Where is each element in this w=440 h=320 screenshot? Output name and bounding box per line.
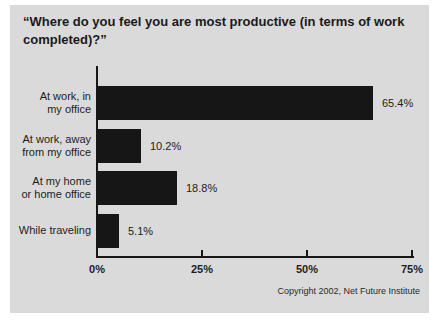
page-background: “Where do you feel you are most producti… [0,0,440,320]
category-label: At work, away from my office [10,129,91,163]
x-tick-label: 0% [77,263,117,275]
bar [98,86,373,120]
value-label: 18.8% [186,181,217,195]
value-label: 5.1% [128,224,153,238]
x-axis-line [96,256,414,258]
category-label: At my home or home office [10,171,91,205]
value-label: 65.4% [382,96,413,110]
category-label: While traveling [10,214,91,248]
bar [98,171,177,205]
bar [98,214,119,248]
bar [98,129,141,163]
x-tick-mark [411,250,413,256]
plot-area: At work, in my office65.4%At work, away … [10,5,429,313]
x-tick-label: 75% [392,263,432,275]
category-label: At work, in my office [10,86,91,120]
x-tick-mark [201,250,203,256]
value-label: 10.2% [150,139,181,153]
copyright-text: Copyright 2002, Net Future Institute [277,286,420,296]
x-tick-label: 25% [182,263,222,275]
x-tick-mark [306,250,308,256]
chart-panel: “Where do you feel you are most producti… [10,5,429,313]
x-tick-label: 50% [287,263,327,275]
